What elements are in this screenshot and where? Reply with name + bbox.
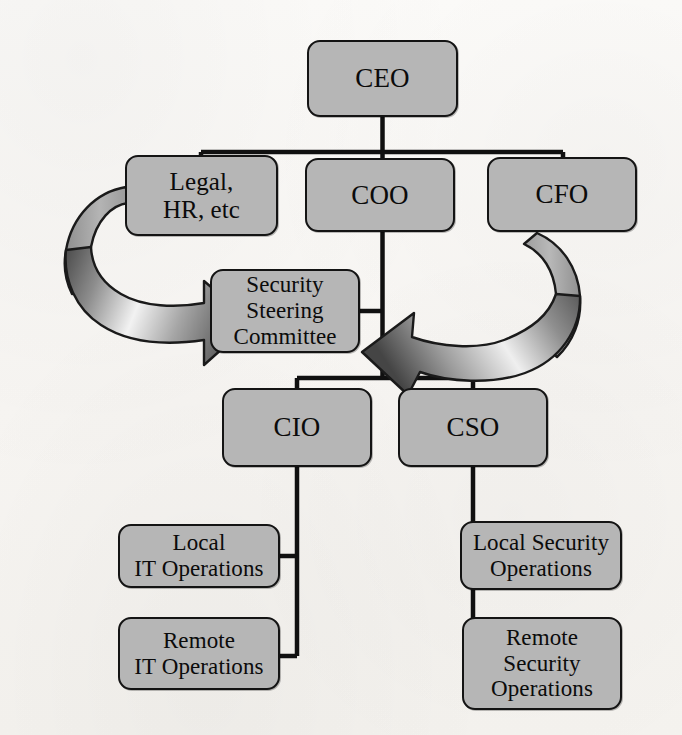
node-cso-label: CSO xyxy=(441,412,506,442)
node-cfo[interactable]: CFO xyxy=(487,157,637,232)
node-cio[interactable]: CIO xyxy=(222,388,372,467)
node-local-security-operations[interactable]: Local Security Operations xyxy=(460,521,622,590)
node-remote-it-operations-label: Remote IT Operations xyxy=(128,628,269,680)
node-legal-hr[interactable]: Legal, HR, etc xyxy=(125,155,278,236)
org-chart-diagram: CEO Legal, HR, etc COO CFO Security Stee… xyxy=(0,0,682,735)
node-security-steering-committee-label: Security Steering Committee xyxy=(227,272,342,349)
node-cfo-label: CFO xyxy=(530,179,595,209)
node-cio-label: CIO xyxy=(268,412,327,442)
node-legal-hr-label: Legal, HR, etc xyxy=(157,168,246,224)
node-local-it-operations-label: Local IT Operations xyxy=(128,530,269,582)
node-remote-security-operations[interactable]: Remote Security Operations xyxy=(462,617,622,710)
node-cso[interactable]: CSO xyxy=(398,388,548,467)
node-local-security-operations-label: Local Security Operations xyxy=(467,530,615,582)
node-local-it-operations[interactable]: Local IT Operations xyxy=(118,524,280,588)
flow-arrow-cfo-to-ssc-icon xyxy=(362,233,580,395)
node-ceo[interactable]: CEO xyxy=(307,40,458,117)
node-remote-security-operations-label: Remote Security Operations xyxy=(485,625,599,702)
node-ceo-label: CEO xyxy=(349,63,415,93)
node-security-steering-committee[interactable]: Security Steering Committee xyxy=(210,269,360,353)
node-remote-it-operations[interactable]: Remote IT Operations xyxy=(118,617,280,690)
node-coo-label: COO xyxy=(345,180,414,210)
node-coo[interactable]: COO xyxy=(305,158,455,232)
